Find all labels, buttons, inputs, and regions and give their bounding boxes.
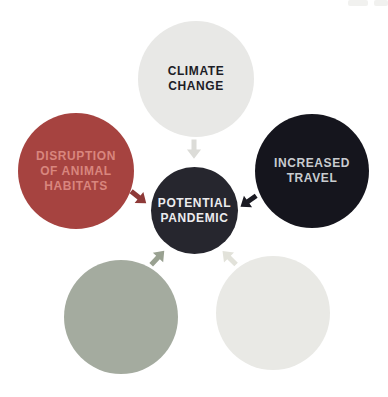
node-climate-change-label: CLIMATE CHANGE (168, 64, 225, 94)
node-animal-habitats: DISRUPTION OF ANIMAL HABITATS (18, 113, 134, 229)
node-cream-factor (216, 256, 330, 370)
node-increased-travel: INCREASED TRAVEL (255, 114, 369, 228)
node-climate-change: CLIMATE CHANGE (138, 21, 254, 137)
arrow-down-left-icon (235, 189, 261, 214)
cropped-edge-artifact (374, 0, 388, 6)
node-animal-habitats-label: DISRUPTION OF ANIMAL HABITATS (36, 149, 116, 194)
cropped-edge-artifact (348, 0, 368, 6)
node-potential-pandemic-label: POTENTIAL PANDEMIC (158, 196, 231, 226)
node-potential-pandemic: POTENTIAL PANDEMIC (151, 167, 238, 254)
node-increased-travel-label: INCREASED TRAVEL (274, 156, 350, 186)
node-green-factor (64, 260, 178, 374)
pandemic-factors-diagram: CLIMATE CHANGE DISRUPTION OF ANIMAL HABI… (0, 0, 388, 397)
arrow-down-icon (186, 140, 203, 160)
